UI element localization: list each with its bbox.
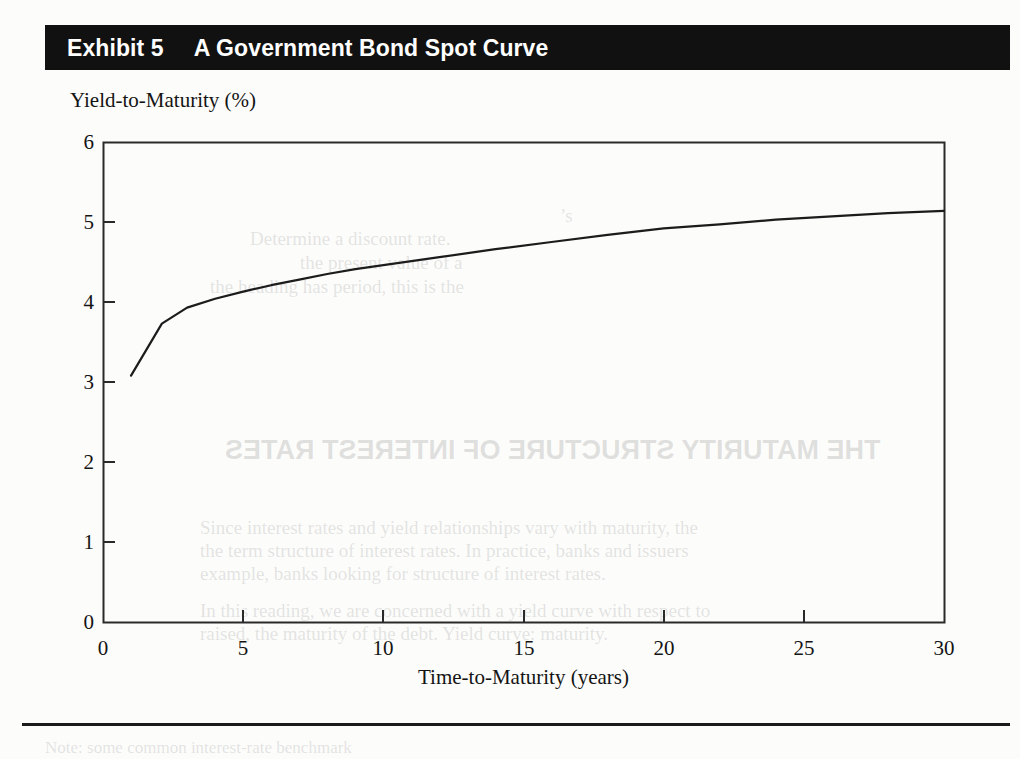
- x-axis-title: Time-to-Maturity (years): [103, 665, 944, 690]
- plot-frame: [104, 143, 945, 623]
- y-axis-ticks: [103, 222, 115, 542]
- plot-svg: [0, 0, 1020, 759]
- spot-curve-line: [131, 211, 944, 376]
- x-axis-ticks: [243, 610, 804, 622]
- spot-curve-chart: Yield-to-Maturity (%) 6 5 4 3 2 1 0 0 5 …: [0, 0, 1020, 759]
- bottom-rule-divider: [22, 723, 1010, 726]
- exhibit-page: ’s Determine a discount rate. the presen…: [0, 0, 1020, 759]
